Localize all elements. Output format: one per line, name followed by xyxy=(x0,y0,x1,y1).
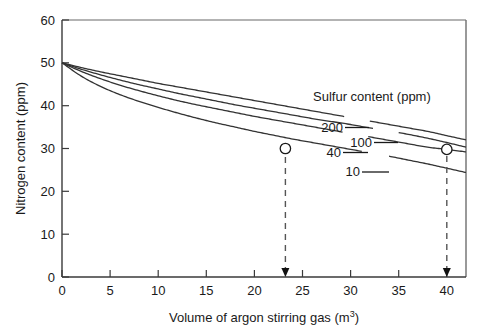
x-tick-35: 35 xyxy=(391,283,405,298)
chart-figure: 0 10 20 30 40 50 60 0 5 10 15 20 xyxy=(0,0,490,334)
y-axis-tick-labels: 0 10 20 30 40 50 60 xyxy=(41,13,55,285)
y-tick-30: 30 xyxy=(41,141,55,156)
y-tick-40: 40 xyxy=(41,98,55,113)
series-label-200: 200 xyxy=(321,120,343,135)
marker-open-circle-right xyxy=(442,144,452,154)
x-axis-title-close: ) xyxy=(355,310,359,325)
x-tick-15: 15 xyxy=(199,283,213,298)
x-tick-25: 25 xyxy=(295,283,309,298)
marker-open-circle-left xyxy=(280,143,290,153)
x-tick-10: 10 xyxy=(151,283,165,298)
x-tick-40: 40 xyxy=(440,283,454,298)
x-tick-5: 5 xyxy=(106,283,113,298)
y-tick-10: 10 xyxy=(41,227,55,242)
x-tick-30: 30 xyxy=(343,283,357,298)
x-tick-0: 0 xyxy=(58,283,65,298)
y-tick-60: 60 xyxy=(41,13,55,28)
y-axis-title: Nitrogen content (ppm) xyxy=(13,82,28,215)
y-tick-50: 50 xyxy=(41,55,55,70)
y-tick-0: 0 xyxy=(48,270,55,285)
x-axis-title-base: Volume of argon stirring gas (m xyxy=(169,310,350,325)
x-axis-title: Volume of argon stirring gas (m3) xyxy=(169,309,359,325)
series-label-10: 10 xyxy=(346,164,360,179)
y-tick-20: 20 xyxy=(41,184,55,199)
legend-title: Sulfur content (ppm) xyxy=(313,89,431,104)
x-tick-20: 20 xyxy=(247,283,261,298)
series-label-40: 40 xyxy=(327,145,341,160)
plot-frame xyxy=(62,20,466,277)
series-label-100: 100 xyxy=(350,135,372,150)
chart-canvas: 0 10 20 30 40 50 60 0 5 10 15 20 xyxy=(0,0,490,334)
x-axis-tick-labels: 0 5 10 15 20 25 30 35 40 xyxy=(58,283,454,298)
